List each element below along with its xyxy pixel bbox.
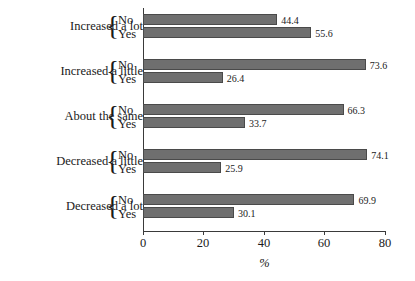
x-tick-mark xyxy=(143,231,144,235)
series-label-no: No xyxy=(118,104,133,116)
plot-area: 44.455.673.626.466.333.774.125.969.930.1 xyxy=(143,8,385,230)
series-label-yes: Yes xyxy=(118,118,136,130)
x-tick-label: 0 xyxy=(123,236,163,250)
bar-value-label: 44.4 xyxy=(281,15,299,26)
series-label-no: No xyxy=(118,14,133,26)
bar-value-label: 26.4 xyxy=(227,73,245,84)
series-label-no: No xyxy=(118,194,133,206)
bar-increased-a-lot-no xyxy=(143,14,277,25)
bar-value-label: 55.6 xyxy=(315,28,333,39)
x-tick-mark xyxy=(264,231,265,235)
bar-about-the-same-no xyxy=(143,104,344,115)
bar-increased-a-lot-yes xyxy=(143,27,311,38)
series-label-yes: Yes xyxy=(118,163,136,175)
series-label-yes: Yes xyxy=(118,28,136,40)
bar-value-label: 33.7 xyxy=(249,118,267,129)
x-tick-label: 80 xyxy=(365,236,405,250)
bar-decreased-a-little-yes xyxy=(143,162,221,173)
bar-value-label: 73.6 xyxy=(370,60,388,71)
bar-increased-a-little-no xyxy=(143,59,366,70)
series-label-yes: Yes xyxy=(118,73,136,85)
x-axis-title: % xyxy=(143,256,386,271)
x-tick-mark xyxy=(203,231,204,235)
bar-increased-a-little-yes xyxy=(143,72,223,83)
bar-decreased-a-lot-no xyxy=(143,194,354,205)
x-tick-label: 60 xyxy=(304,236,344,250)
bar-about-the-same-yes xyxy=(143,117,245,128)
bar-value-label: 74.1 xyxy=(371,150,389,161)
bar-value-label: 66.3 xyxy=(348,105,366,116)
x-tick-mark xyxy=(385,231,386,235)
bar-decreased-a-lot-yes xyxy=(143,207,234,218)
series-label-yes: Yes xyxy=(118,208,136,220)
x-tick-label: 40 xyxy=(244,236,284,250)
bar-chart: Increased a lot { No Yes Increased a lit… xyxy=(0,0,415,281)
x-tick-mark xyxy=(324,231,325,235)
series-label-no: No xyxy=(118,59,133,71)
bar-value-label: 69.9 xyxy=(358,195,376,206)
x-tick-label: 20 xyxy=(183,236,223,250)
bar-value-label: 25.9 xyxy=(225,163,243,174)
series-label-no: No xyxy=(118,149,133,161)
bar-decreased-a-little-no xyxy=(143,149,367,160)
bar-value-label: 30.1 xyxy=(238,208,256,219)
